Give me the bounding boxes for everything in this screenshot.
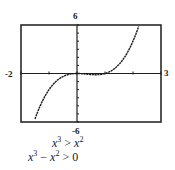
greater-than-operator: > — [59, 150, 72, 164]
inequality-line-2: x3 − x2 > 0 — [28, 151, 78, 164]
term-exponent: 2 — [79, 135, 83, 144]
y-max-label: 6 — [73, 11, 78, 21]
calculator-plot — [0, 0, 175, 170]
x-max-label: 3 — [164, 68, 169, 78]
cubic-curve — [35, 27, 139, 119]
greater-than-operator: > — [61, 136, 74, 150]
zero-value: 0 — [72, 150, 78, 164]
graph-figure: 6 -6 -2 3 x3 > x2 x3 − x2 > 0 — [0, 0, 175, 170]
minus-operator: − — [37, 150, 50, 164]
x-min-label: -2 — [5, 69, 13, 79]
